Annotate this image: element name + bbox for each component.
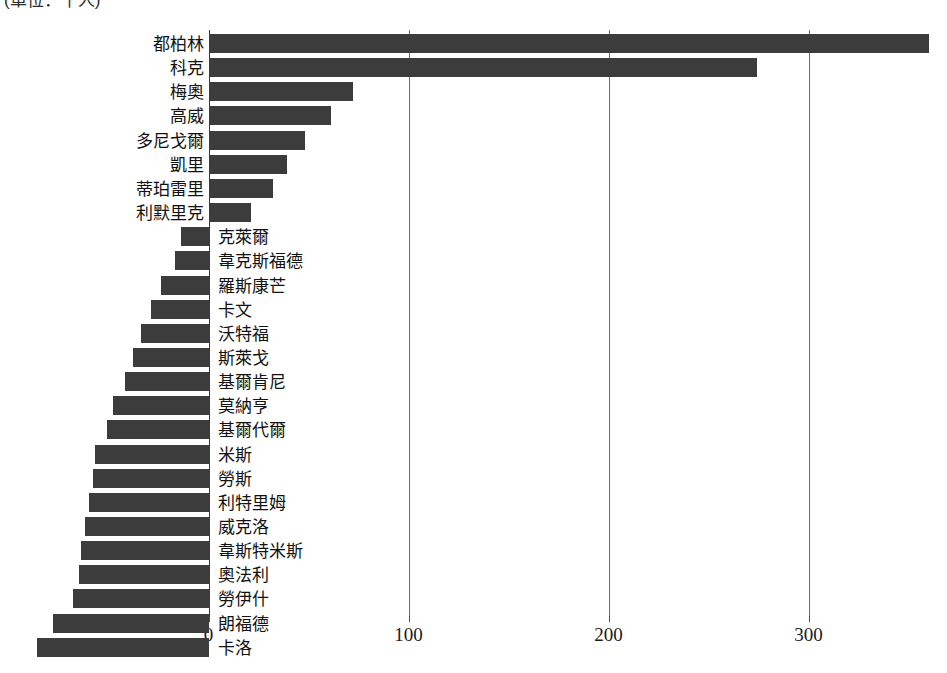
x-tick-mark-0 [209,616,210,622]
category-label: 韋斯特米斯 [218,542,303,561]
category-label: 朗福德 [218,615,269,634]
category-label: 凱里 [170,156,204,175]
bar[interactable] [209,155,287,174]
x-tick-label-200: 200 [574,624,644,646]
bar[interactable] [93,469,209,488]
category-label: 威克洛 [218,518,269,537]
bar[interactable] [175,251,209,270]
category-label: 都柏林 [153,35,204,54]
bar[interactable] [209,131,305,150]
bar[interactable] [37,638,209,657]
category-label: 蒂珀雷里 [136,180,204,199]
bar[interactable] [73,589,209,608]
bar[interactable] [85,517,209,536]
bar[interactable] [133,348,209,367]
category-label: 莫納亨 [218,397,269,416]
bar[interactable] [181,227,209,246]
bar[interactable] [79,565,209,584]
category-label: 利默里克 [136,204,204,223]
bar[interactable] [209,179,273,198]
category-label: 米斯 [218,446,252,465]
category-label: 基爾代爾 [218,421,286,440]
bar[interactable] [95,445,209,464]
bar[interactable] [113,396,209,415]
x-tick-mark-100 [409,616,410,622]
category-label: 克萊爾 [218,228,269,247]
category-label: 羅斯康芒 [218,277,286,296]
bar[interactable] [209,34,929,53]
category-label: 基爾肯尼 [218,373,286,392]
category-label: 勞伊什 [218,590,269,609]
bar[interactable] [209,58,757,77]
category-label: 卡文 [218,301,252,320]
bar[interactable] [151,300,209,319]
bar[interactable] [141,324,209,343]
x-tick-label-300: 300 [774,624,844,646]
x-tick-label-100: 100 [374,624,444,646]
category-label: 高威 [170,107,204,126]
bar[interactable] [125,372,209,391]
category-label: 勞斯 [218,470,252,489]
gridline-200 [609,30,610,616]
bar[interactable] [89,493,209,512]
category-label: 沃特福 [218,325,269,344]
category-label: 科克 [170,59,204,78]
bar[interactable] [161,276,209,295]
plot-area: 0100200300都柏林科克梅奧高威多尼戈爾凱里蒂珀雷里利默里克克萊爾韋克斯福… [0,0,947,673]
bar[interactable] [209,203,251,222]
bar-chart: (單位：千人) 0100200300都柏林科克梅奧高威多尼戈爾凱里蒂珀雷里利默里… [0,0,947,673]
category-label: 多尼戈爾 [136,132,204,151]
bar[interactable] [107,420,209,439]
x-tick-mark-200 [609,616,610,622]
category-label: 卡洛 [218,639,252,658]
category-label: 梅奧 [170,83,204,102]
bar[interactable] [209,82,353,101]
category-label: 韋克斯福德 [218,252,303,271]
bar[interactable] [53,614,209,633]
category-label: 奧法利 [218,566,269,585]
x-tick-mark-300 [809,616,810,622]
bar[interactable] [81,541,209,560]
bar[interactable] [209,106,331,125]
gridline-300 [809,30,810,616]
gridline-100 [409,30,410,616]
category-label: 利特里姆 [218,494,286,513]
category-label: 斯萊戈 [218,349,269,368]
